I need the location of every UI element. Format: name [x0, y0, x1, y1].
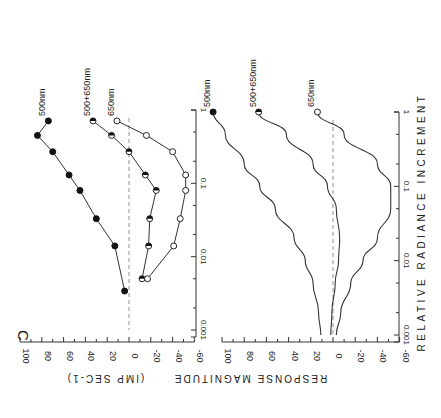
model-curve [317, 112, 390, 335]
model-curve [259, 112, 340, 335]
value-tick-label: 40 [86, 351, 96, 361]
value-tick-label: -40 [378, 349, 388, 362]
filled-marker [112, 243, 118, 249]
series-line [93, 121, 156, 279]
series-label: 650nm [106, 88, 116, 116]
filled-marker [50, 149, 56, 155]
open-marker [177, 216, 183, 222]
value-tick-label: 40 [290, 351, 300, 361]
open-marker [114, 118, 120, 124]
filled-marker [45, 118, 51, 124]
filled-marker [210, 109, 216, 115]
value-tick-label: -40 [174, 349, 184, 362]
value-tick-label: 80 [245, 351, 255, 361]
filled-marker [122, 288, 128, 294]
value-tick-label: -60 [401, 349, 411, 362]
series-line [37, 121, 124, 291]
value-tick-label: 0 [334, 353, 344, 358]
log-tick-label: 0.01 [199, 249, 208, 265]
value-tick-label: 60 [65, 351, 75, 361]
bottom-panel-model: 100806040200-20-40-600.0010.010.11500nm5… [202, 59, 411, 363]
open-marker [183, 187, 189, 193]
log-tick-label: 0.1 [199, 178, 208, 190]
series-label: 500+650nm [82, 68, 92, 116]
rotated-chart-figure: 100806040200-20-40-600.0010.010.11500nm5… [0, 0, 441, 418]
series-line [117, 121, 186, 279]
series-label: 500nm [37, 88, 47, 116]
open-marker [143, 132, 149, 138]
open-marker [170, 149, 176, 155]
series-label: 500nm [202, 79, 212, 107]
log-tick-label: 0.1 [402, 181, 411, 193]
top-panel-measured: 100806040200-20-40-600.0010.010.11500nm5… [20, 68, 208, 363]
log-tick-label: 0.001 [199, 320, 208, 341]
x-axis-label: RELATIVE RADIANCE INCREMENT [416, 93, 427, 352]
y-axis-label-top: (IMP SEC-1) [66, 373, 145, 384]
value-tick-label: 20 [108, 351, 118, 361]
log-tick-label: 1 [402, 110, 411, 115]
value-tick-label: -20 [152, 349, 162, 362]
value-tick-label: -20 [356, 349, 366, 362]
filled-marker [66, 172, 72, 178]
value-tick-label: 60 [267, 351, 277, 361]
value-tick-label: 20 [312, 351, 322, 361]
series-label: 500+650nm [248, 59, 258, 107]
open-marker [145, 276, 151, 282]
filled-marker [34, 132, 40, 138]
value-tick-label: 0 [130, 353, 140, 358]
log-tick-label: 0.001 [402, 325, 411, 346]
open-marker [183, 172, 189, 178]
series-label: 650nm [306, 79, 316, 107]
y-axis-label-bottom: RESPONSE MAGNITUDE [173, 373, 327, 384]
value-tick-label: 80 [43, 351, 53, 361]
value-tick-label: 100 [21, 348, 31, 363]
filled-marker [93, 216, 99, 222]
panel-label: C [15, 330, 32, 341]
value-tick-label: -60 [195, 349, 205, 362]
log-tick-label: 1 [199, 108, 208, 113]
value-tick-label: 100 [223, 348, 233, 363]
open-marker [171, 243, 177, 249]
filled-marker [77, 187, 83, 193]
log-tick-label: 0.01 [402, 253, 411, 269]
model-curve [213, 112, 321, 335]
open-marker [314, 109, 320, 115]
